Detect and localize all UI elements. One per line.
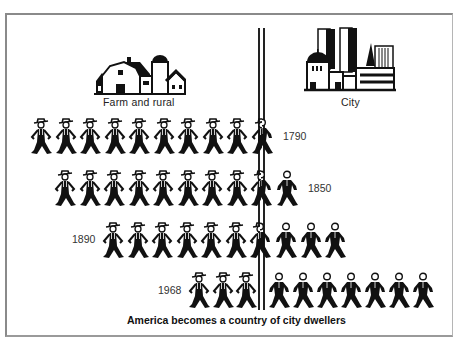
farmer-figure-icon <box>126 118 152 158</box>
farmer-figure-icon <box>53 118 79 158</box>
farmer-figure-icon <box>125 222 151 262</box>
row-1850 <box>52 170 312 210</box>
farmer-figure-icon <box>52 170 78 210</box>
farmer-figure-icon <box>199 170 225 210</box>
city-dweller-figure-icon <box>274 170 300 210</box>
farmer-figure-icon <box>175 118 201 158</box>
farmer-figure-icon <box>28 118 54 158</box>
farmer-figure-icon <box>233 272 259 312</box>
farmer-figure-icon <box>77 118 103 158</box>
row-1968 <box>186 272 436 312</box>
city-dweller-figure-icon <box>362 272 388 312</box>
half-farmer-half-city-figure-icon <box>247 222 273 262</box>
farmer-figure-icon <box>210 272 236 312</box>
city-dweller-figure-icon <box>298 222 324 262</box>
city-dweller-figure-icon <box>386 272 412 312</box>
city-dweller-figure-icon <box>273 222 299 262</box>
farmer-figure-icon <box>102 118 128 158</box>
city-label: City <box>341 96 360 108</box>
farmer-figure-icon <box>100 222 126 262</box>
farmer-figure-icon <box>186 272 212 312</box>
row-1890 <box>100 222 360 262</box>
farm-barn-silo-icon <box>94 48 186 95</box>
half-farmer-half-city-figure-icon <box>249 118 275 158</box>
farmer-figure-icon <box>150 170 176 210</box>
city-dweller-figure-icon <box>290 272 316 312</box>
farmer-figure-icon <box>198 222 224 262</box>
farmer-figure-icon <box>151 118 177 158</box>
city-dweller-figure-icon <box>338 272 364 312</box>
row-1790 <box>28 118 288 158</box>
city-dweller-figure-icon <box>314 272 340 312</box>
farmer-figure-icon <box>200 118 226 158</box>
farmer-figure-icon <box>101 170 127 210</box>
year-label-1968: 1968 <box>158 284 181 296</box>
half-farmer-half-city-figure-icon <box>248 170 274 210</box>
city-dweller-figure-icon <box>322 222 348 262</box>
year-label-1890: 1890 <box>72 233 95 245</box>
diagram-caption: America becomes a country of city dwelle… <box>127 314 346 326</box>
farmer-figure-icon <box>149 222 175 262</box>
farmer-figure-icon <box>224 170 250 210</box>
farmer-figure-icon <box>77 170 103 210</box>
city-skyline-icon <box>304 26 396 93</box>
city-dweller-figure-icon <box>266 272 292 312</box>
farmer-figure-icon <box>174 222 200 262</box>
farmer-figure-icon <box>126 170 152 210</box>
farm-label: Farm and rural <box>103 96 175 108</box>
divider-line-left <box>258 28 260 310</box>
divider-line-right <box>263 28 265 310</box>
farmer-figure-icon <box>224 118 250 158</box>
year-label-1790: 1790 <box>283 130 306 142</box>
city-dweller-figure-icon <box>410 272 436 312</box>
year-label-1850: 1850 <box>308 182 331 194</box>
farmer-figure-icon <box>175 170 201 210</box>
farmer-figure-icon <box>223 222 249 262</box>
